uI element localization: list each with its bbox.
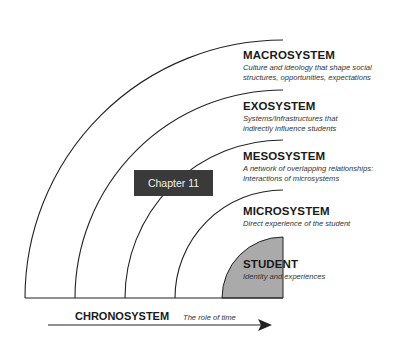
- microsystem-label: MICROSYSTEM Direct experience of the stu…: [243, 205, 350, 229]
- mesosystem-label: MESOSYSTEM A network of overlapping rela…: [243, 150, 373, 184]
- macrosystem-label: MACROSYSTEM Culture and ideology that sh…: [243, 49, 372, 83]
- student-label: STUDENT Identity and experiences: [243, 258, 325, 282]
- chapter-badge: Chapter 11: [134, 170, 213, 196]
- exosystem-label: EXOSYSTEM Systems/Infrastructures thatin…: [243, 100, 338, 134]
- chronosystem-title: CHRONOSYSTEM: [75, 310, 169, 322]
- chronosystem-description: The role of time: [183, 313, 236, 322]
